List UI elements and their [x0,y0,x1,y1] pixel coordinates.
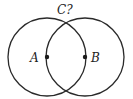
label-b: B [90,51,100,65]
point-b-dot [83,55,87,59]
point-a-dot [45,55,49,59]
diagram-canvas: A B C? [0,0,133,99]
label-a: A [29,51,39,65]
label-c-question: C? [57,3,73,17]
